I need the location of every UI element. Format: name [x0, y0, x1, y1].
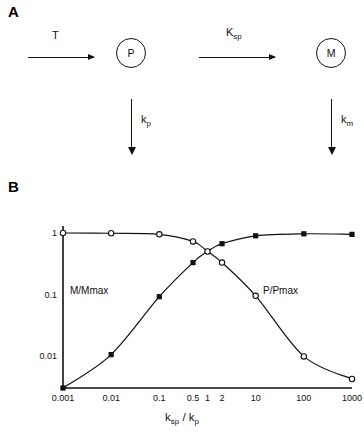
- x-tick-label: 2: [219, 393, 224, 403]
- panel-a-kinetic-scheme: A T P Ksp M kp km: [0, 0, 364, 175]
- panel-a-label: A: [8, 4, 19, 19]
- x-tick-label: 1: [205, 393, 210, 403]
- arrow-label-t: T: [52, 29, 59, 41]
- arrow-m-degradation: [331, 99, 332, 148]
- curve-p-over-pmax: [63, 233, 352, 379]
- x-tick-label: 0.01: [102, 393, 120, 403]
- data-point: [157, 294, 162, 299]
- data-point: [157, 232, 162, 237]
- y-tick-label: 0.01: [39, 351, 57, 361]
- data-point: [108, 231, 113, 236]
- x-tick-label: 0.1: [153, 393, 166, 403]
- x-tick-labels: 0.0010.010.10.512101001000: [52, 393, 362, 403]
- data-point: [253, 293, 258, 298]
- data-point: [219, 260, 224, 265]
- y-tick-label: 1: [52, 228, 57, 238]
- data-point: [60, 385, 65, 390]
- plot-series-group: [60, 230, 354, 390]
- x-tick-label: 100: [296, 393, 311, 403]
- rate-label-km: km: [341, 113, 353, 128]
- data-point: [253, 233, 258, 238]
- data-point: [109, 352, 114, 357]
- data-point: [60, 230, 65, 235]
- data-point: [349, 376, 354, 381]
- y-tick-labels: 10.10.01: [39, 228, 57, 361]
- arrow-label-ksp: Ksp: [226, 26, 242, 41]
- data-point: [219, 241, 224, 246]
- rate-label-kp: kp: [141, 113, 151, 128]
- node-p: P: [116, 38, 146, 68]
- arrow-t-to-p: [28, 57, 94, 58]
- data-point: [301, 231, 306, 236]
- x-tick-label: 0.001: [52, 393, 75, 403]
- curve-label-m: M/Mmax: [70, 285, 108, 296]
- y-tick-label: 0.1: [44, 290, 57, 300]
- node-m: M: [316, 38, 346, 68]
- curve-m-over-mmax: [63, 234, 352, 388]
- curve-label-p: P/Pmax: [263, 285, 298, 296]
- data-point: [301, 354, 306, 359]
- x-tick-label: 10: [251, 393, 261, 403]
- arrow-p-to-m: [199, 57, 275, 58]
- x-tick-label: 0.5: [187, 393, 200, 403]
- data-point: [190, 239, 195, 244]
- arrow-p-degradation: [131, 99, 132, 148]
- data-point: [205, 249, 210, 254]
- data-point: [349, 232, 354, 237]
- panel-b-log-plot: B 0.0010.010.10.512101001000 10.10.01 M/…: [0, 175, 364, 445]
- data-point: [190, 260, 195, 265]
- x-tick-label: 1000: [342, 393, 362, 403]
- plot-svg: 0.0010.010.10.512101001000 10.10.01 M/Mm…: [0, 175, 364, 445]
- x-axis-title: ksp / kp: [0, 411, 364, 426]
